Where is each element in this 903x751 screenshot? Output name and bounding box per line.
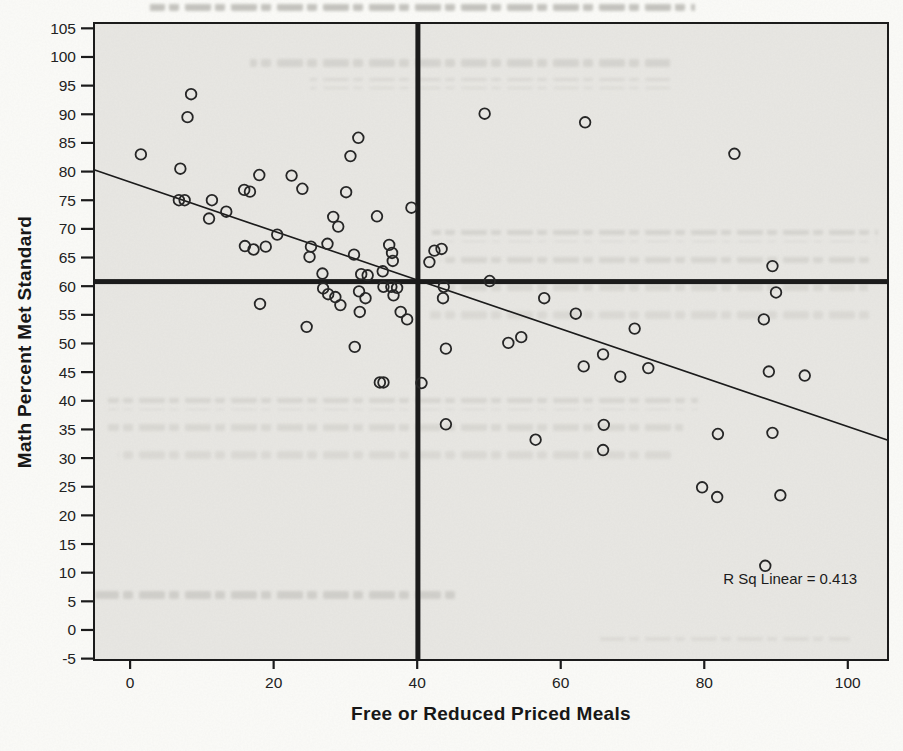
scan-noise-texture [0, 0, 903, 751]
y-tick-label: 5 [67, 593, 76, 610]
y-tick-label: 60 [59, 278, 77, 295]
x-tick-label: 0 [126, 674, 135, 691]
x-tick-label: 60 [552, 674, 570, 691]
x-tick-label: 40 [409, 674, 427, 691]
y-tick-label: 75 [59, 192, 76, 209]
horizontal-reference-line [94, 279, 888, 284]
y-tick-label: 90 [59, 106, 77, 123]
y-tick-label: 65 [59, 249, 76, 266]
y-tick-label: 80 [59, 163, 77, 180]
y-tick-label: 105 [50, 20, 76, 37]
y-tick-label: 50 [59, 335, 77, 352]
y-tick-label: 95 [59, 77, 76, 94]
r-squared-annotation: R Sq Linear = 0.413 [723, 570, 857, 587]
x-tick-label: 20 [265, 674, 283, 691]
y-tick-label: 55 [59, 306, 76, 323]
x-tick-label: 80 [696, 674, 714, 691]
y-tick-label: 0 [67, 621, 76, 638]
y-tick-label: 40 [59, 392, 77, 409]
y-tick-label: 45 [59, 364, 76, 381]
y-tick-label: 20 [59, 507, 77, 524]
scanned-page: 020406080100-505101520253035404550556065… [0, 0, 903, 751]
y-tick-label: 30 [59, 450, 77, 467]
y-tick-label: 70 [59, 220, 77, 237]
y-tick-label: 15 [59, 536, 76, 553]
y-tick-label: 35 [59, 421, 76, 438]
y-tick-label: 10 [59, 564, 77, 581]
x-tick-label: 100 [835, 674, 861, 691]
scatter-chart: 020406080100-505101520253035404550556065… [0, 0, 903, 751]
y-tick-label: 25 [59, 478, 76, 495]
vertical-reference-line [415, 23, 420, 660]
y-tick-label: 100 [50, 48, 76, 65]
y-tick-label: 85 [59, 134, 76, 151]
y-tick-label: -5 [62, 650, 76, 667]
